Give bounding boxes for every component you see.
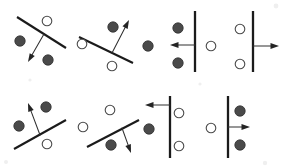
data-point-filled: [14, 121, 24, 131]
panel-8: [206, 96, 250, 158]
scan-speck: [28, 78, 31, 81]
data-point-filled: [15, 36, 25, 46]
data-point-filled: [144, 124, 154, 134]
data-point-filled: [41, 102, 51, 112]
data-point-open: [235, 24, 245, 34]
data-point-filled: [43, 55, 53, 65]
data-point-open: [42, 139, 52, 149]
data-point-open: [235, 59, 245, 69]
normal-vector-arrowhead: [28, 53, 35, 62]
panel-2: [77, 20, 133, 71]
data-point-open: [174, 108, 184, 118]
normal-vector-arrowhead: [145, 102, 154, 108]
data-point-filled: [173, 58, 183, 68]
panel-7: [144, 96, 184, 158]
data-point-filled: [235, 140, 245, 150]
panel-4: [206, 11, 279, 72]
panels-layer: [14, 11, 279, 158]
panel-5: [14, 102, 66, 149]
normal-vector-arrowhead: [170, 42, 179, 48]
data-point-filled: [235, 106, 245, 116]
normal-vector-arrowhead: [271, 43, 280, 49]
figure-canvas: [0, 0, 284, 168]
data-point-open: [77, 39, 87, 49]
scan-speck: [263, 161, 267, 165]
decision-boundary-line: [79, 37, 133, 63]
scan-speck: [198, 82, 201, 85]
data-point-filled: [106, 140, 116, 150]
scan-speck: [274, 4, 279, 9]
normal-vector-shaft: [31, 34, 44, 56]
normal-vector-shaft: [30, 109, 40, 135]
data-point-open: [206, 41, 216, 51]
normal-vector-arrowhead: [123, 20, 129, 29]
normal-vector-shaft: [122, 128, 129, 147]
normal-vector-arrowhead: [28, 103, 34, 112]
data-point-open: [174, 141, 184, 151]
scan-speck: [4, 160, 8, 164]
panel-3: [143, 11, 195, 72]
data-point-open: [107, 61, 117, 71]
data-point-filled: [108, 22, 118, 32]
panel-6: [78, 105, 139, 153]
data-point-open: [206, 123, 216, 133]
data-point-open: [42, 16, 52, 26]
decision-boundary-diagram: [0, 0, 284, 168]
data-point-open: [105, 105, 115, 115]
normal-vector-arrowhead: [125, 144, 131, 153]
data-point-open: [78, 122, 88, 132]
panel-1: [15, 16, 66, 65]
data-point-filled: [173, 23, 183, 33]
normal-vector-arrowhead: [242, 124, 251, 130]
data-point-filled: [143, 41, 153, 51]
